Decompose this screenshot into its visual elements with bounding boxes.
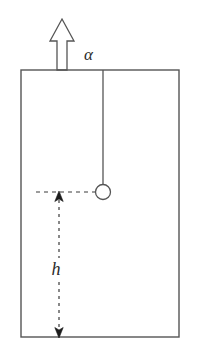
- acceleration-arrow-outline: [50, 19, 74, 70]
- physics-diagram: α h: [0, 0, 198, 358]
- diagram-canvas: α h: [0, 0, 198, 358]
- acceleration-label: α: [84, 45, 94, 64]
- pendulum-bob: [96, 185, 111, 200]
- container-box: [21, 70, 179, 337]
- height-label: h: [52, 259, 61, 279]
- acceleration-arrow: [50, 19, 74, 70]
